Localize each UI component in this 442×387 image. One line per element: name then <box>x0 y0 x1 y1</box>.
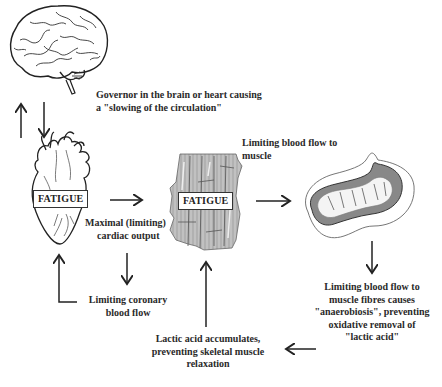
lactic-acid-label: Lactic acid accumulates, preventing skel… <box>143 333 273 371</box>
lactic-acid-line-2: preventing skeletal muscle <box>143 346 273 359</box>
governor-label: Governor in the brain or heart causing a… <box>96 89 296 114</box>
muscle-flow-line-2: muscle <box>242 150 372 163</box>
cardiac-output-label: Maximal (limiting) cardiac output <box>85 217 185 242</box>
cardiac-output-line-2: cardiac output <box>85 230 185 243</box>
coronary-flow-line-2: blood flow <box>78 307 178 320</box>
anaerobiosis-line-3: "anaerobiosis", preventing <box>312 306 432 319</box>
anaerobiosis-line-5: "lactic acid" <box>312 331 432 344</box>
lactic-acid-line-3: relaxation <box>143 358 273 371</box>
cardiac-output-line-1: Maximal (limiting) <box>85 217 185 230</box>
anaerobiosis-line-2: muscle fibres causes <box>312 294 432 307</box>
coronary-flow-label: Limiting coronary blood flow <box>78 294 178 319</box>
lactic-acid-line-1: Lactic acid accumulates, <box>143 333 273 346</box>
coronary-flow-line-1: Limiting coronary <box>78 294 178 307</box>
muscle-flow-line-1: Limiting blood flow to <box>242 137 372 150</box>
muscle-flow-label: Limiting blood flow to muscle <box>242 137 372 162</box>
governor-line-2: a "slowing of the circulation" <box>96 102 296 115</box>
anaerobiosis-line-4: oxidative removal of <box>312 319 432 332</box>
governor-line-1: Governor in the brain or heart causing <box>96 89 296 102</box>
anaerobiosis-line-1: Limiting blood flow to <box>312 281 432 294</box>
anaerobiosis-label: Limiting blood flow to muscle fibres cau… <box>312 281 432 344</box>
